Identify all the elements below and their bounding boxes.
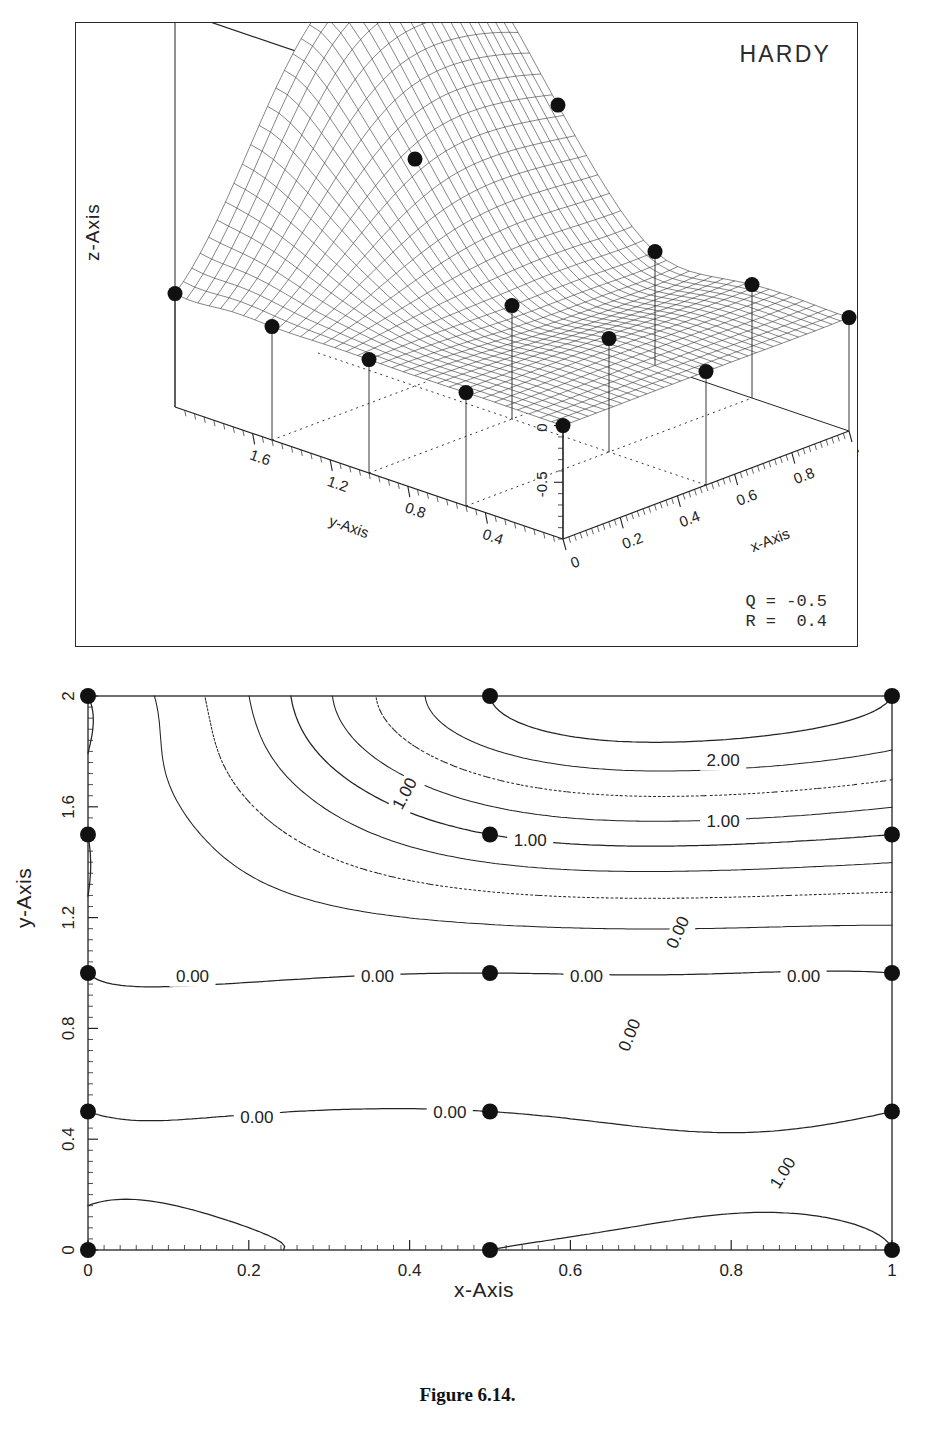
surface-plot-panel: -0.500.511.522.500.20.40.60.81x-Axis1.61…: [75, 22, 858, 647]
surface-data-point: [602, 331, 617, 346]
contour-level-label: 1.00: [514, 831, 547, 850]
surface-data-point: [265, 319, 280, 334]
contour-data-point: [80, 1242, 96, 1258]
svg-text:x-Axis: x-Axis: [748, 524, 792, 555]
plot-title: HARDY: [739, 41, 831, 68]
svg-text:1.6: 1.6: [248, 446, 273, 469]
contour-data-point: [80, 1104, 96, 1120]
contour-data-point: [482, 965, 498, 981]
contour-level-label: 2.00: [707, 751, 740, 770]
contour-x-axis-label: x-Axis: [454, 1278, 514, 1302]
contour-data-point: [482, 1242, 498, 1258]
svg-text:0.6: 0.6: [559, 1261, 583, 1280]
contour-level-label: 0.00: [361, 967, 394, 986]
surface-plot-canvas: -0.500.511.522.500.20.40.60.81x-Axis1.61…: [76, 23, 859, 648]
surface-data-point: [556, 418, 571, 433]
contour-level-label: 1.00: [707, 812, 740, 831]
contour-plot-canvas: 00.20.40.60.8100.40.81.21.622.001.001.00…: [56, 678, 912, 1310]
contour-data-point: [884, 1104, 900, 1120]
svg-text:0.4: 0.4: [398, 1261, 422, 1280]
contour-data-point: [482, 688, 498, 704]
contour-data-point: [884, 965, 900, 981]
svg-text:1: 1: [854, 444, 859, 463]
contour-level-label: 0.00: [240, 1108, 273, 1127]
svg-text:0: 0: [533, 423, 550, 431]
svg-text:2: 2: [59, 691, 78, 700]
figure-caption: Figure 6.14.: [0, 1384, 935, 1406]
surface-data-point: [362, 352, 377, 367]
svg-text:0.2: 0.2: [237, 1261, 261, 1280]
contour-level-label: 0.00: [787, 967, 820, 986]
svg-text:0.8: 0.8: [791, 464, 817, 487]
contour-y-axis-label: y-Axis: [12, 868, 36, 928]
svg-text:y-Axis: y-Axis: [327, 512, 371, 541]
parameter-annotation: Q = -0.5 R = 0.4: [745, 592, 827, 632]
svg-text:0.8: 0.8: [403, 499, 428, 522]
svg-text:1.6: 1.6: [59, 795, 78, 819]
svg-text:0.2: 0.2: [619, 529, 645, 552]
svg-text:0.4: 0.4: [59, 1127, 78, 1151]
contour-data-point: [884, 1242, 900, 1258]
svg-text:-0.5: -0.5: [533, 471, 550, 497]
svg-text:0: 0: [59, 1245, 78, 1254]
svg-text:1: 1: [887, 1261, 896, 1280]
surface-data-point: [745, 277, 760, 292]
svg-text:0.4: 0.4: [481, 525, 506, 548]
svg-text:1.2: 1.2: [325, 472, 350, 495]
surface-data-point: [551, 98, 566, 113]
surface-data-point: [168, 286, 183, 301]
contour-data-point: [80, 965, 96, 981]
contour-data-point: [482, 1104, 498, 1120]
contour-data-point: [80, 827, 96, 843]
contour-data-point: [80, 688, 96, 704]
surface-data-point: [842, 310, 857, 325]
figure-page: -0.500.511.522.500.20.40.60.81x-Axis1.61…: [0, 0, 935, 1430]
contour-level-label: 0.00: [433, 1103, 466, 1122]
svg-text:0.8: 0.8: [719, 1261, 743, 1280]
contour-data-point: [884, 827, 900, 843]
surface-data-point: [459, 385, 474, 400]
contour-level-label: 0.00: [570, 967, 603, 986]
contour-data-point: [884, 688, 900, 704]
surface-data-point: [699, 364, 714, 379]
contour-data-point: [482, 827, 498, 843]
svg-text:1.2: 1.2: [59, 906, 78, 930]
svg-text:0.6: 0.6: [734, 485, 760, 508]
surface-z-axis-label: z-Axis: [82, 203, 104, 261]
surface-data-point: [505, 298, 520, 313]
contour-level-label: 0.00: [176, 967, 209, 986]
svg-text:0.8: 0.8: [59, 1017, 78, 1041]
surface-data-point: [648, 244, 663, 259]
surface-data-point: [408, 152, 423, 167]
svg-text:0: 0: [568, 552, 582, 571]
contour-plot-panel: 00.20.40.60.8100.40.81.21.622.001.001.00…: [56, 678, 912, 1310]
svg-text:0.4: 0.4: [677, 507, 703, 530]
svg-text:0: 0: [83, 1261, 92, 1280]
